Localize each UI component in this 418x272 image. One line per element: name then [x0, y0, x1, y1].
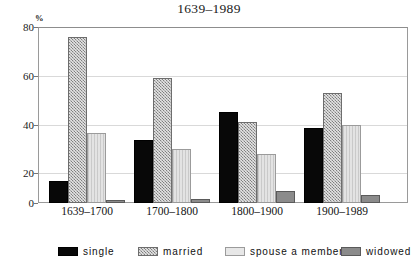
bar-group-1900-1989: [304, 27, 380, 203]
x-tick-label-3: 1900–1989: [302, 205, 382, 217]
legend-swatch-married-icon: [138, 247, 158, 256]
legend-label-married: married: [163, 246, 203, 257]
x-tick-label-2: 1800–1900: [217, 205, 297, 217]
bar-widowed-1800–1900: [276, 191, 295, 203]
bar-widowed-1700–1800: [191, 199, 210, 203]
y-tick-label-40: 40: [4, 119, 34, 131]
y-tick-label-0: 0: [4, 197, 34, 209]
x-tick-label-0: 1639–1700: [47, 205, 127, 217]
y-axis-labels: 80 60 40 20 0: [0, 0, 34, 232]
legend-item-married: married: [138, 244, 203, 258]
legend-swatch-spouse-a-member-icon: [225, 247, 245, 256]
chart-plot-area: % 80 60 40 20 0 1639–1700 1700–1800 1800…: [0, 0, 418, 232]
y-tick-label-60: 60: [4, 70, 34, 82]
y-tick-label-80: 80: [4, 21, 34, 33]
bar-group-1700-1800: [134, 27, 210, 203]
bar-single-1900–1989: [304, 128, 323, 203]
bar-widowed-1900–1989: [361, 195, 380, 203]
bar-widowed-1639–1700: [106, 200, 125, 203]
bar-married-1900–1989: [323, 93, 342, 203]
bar-married-1700–1800: [153, 78, 172, 203]
legend-swatch-single-icon: [58, 247, 78, 256]
bars-layer: [38, 27, 408, 203]
legend-label-single: single: [83, 246, 115, 257]
legend-item-single: single: [58, 244, 115, 258]
y-tickmark-0: [34, 203, 38, 204]
x-tick-label-1: 1700–1800: [132, 205, 212, 217]
bar-spouse-1800–1900: [257, 154, 276, 204]
bar-group-1800-1900: [219, 27, 295, 203]
bar-spouse-1700–1800: [172, 149, 191, 203]
y-axis-unit-label: %: [35, 13, 44, 23]
x-axis-labels: 1639–1700 1700–1800 1800–1900 1900–1989: [38, 205, 408, 225]
legend-label-spouse-a-member: spouse a member: [250, 246, 344, 257]
bar-single-1639–1700: [49, 181, 68, 203]
bar-spouse-1900–1989: [342, 125, 361, 203]
legend-label-widowed: widowed: [366, 246, 411, 257]
chart-legend: single married spouse a member widowed: [0, 244, 418, 264]
bar-single-1700–1800: [134, 140, 153, 203]
bar-married-1639–1700: [68, 37, 87, 203]
bar-spouse-1639–1700: [87, 133, 106, 203]
legend-item-widowed: widowed: [341, 244, 411, 258]
legend-item-spouse-a-member: spouse a member: [225, 244, 344, 258]
legend-swatch-widowed-icon: [341, 247, 361, 256]
bar-single-1800–1900: [219, 112, 238, 203]
y-tick-label-20: 20: [4, 167, 34, 179]
bar-married-1800–1900: [238, 122, 257, 203]
bar-group-1639-1700: [49, 27, 125, 203]
